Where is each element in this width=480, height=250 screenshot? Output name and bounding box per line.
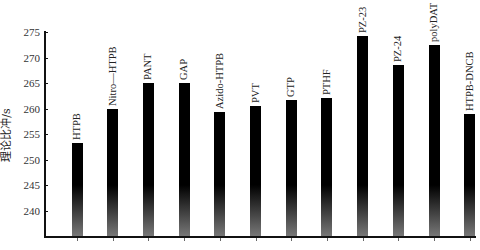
x-tick (434, 238, 435, 241)
y-tick-label: 245 (14, 179, 40, 191)
bar (429, 45, 440, 236)
y-tick (44, 109, 48, 110)
y-tick-label: 250 (14, 154, 40, 166)
bar-label: GAP (178, 59, 189, 80)
y-tick-label: 275 (14, 26, 40, 38)
x-tick (113, 238, 114, 241)
x-tick (184, 238, 185, 241)
bar-label: Nitro—HTPB (107, 46, 118, 106)
x-tick (470, 238, 471, 241)
y-tick-label: 260 (14, 103, 40, 115)
bar (179, 83, 190, 236)
bar (357, 36, 368, 236)
y-tick (44, 83, 48, 84)
y-tick-label: 265 (14, 77, 40, 89)
bar-label: Azido-HTPB (214, 53, 225, 109)
bar (214, 112, 225, 236)
y-tick (44, 211, 48, 212)
bar (72, 143, 83, 236)
x-tick (327, 238, 328, 241)
x-tick (220, 238, 221, 241)
y-tick (44, 160, 48, 161)
y-tick (44, 134, 48, 135)
bar-label: HTPB (71, 113, 82, 140)
x-axis-line (44, 236, 476, 238)
bar-label: PTHF (321, 69, 332, 95)
bar (321, 98, 332, 236)
bar (250, 106, 261, 236)
bar (143, 83, 154, 236)
y-tick-label: 270 (14, 52, 40, 64)
x-tick (363, 238, 364, 241)
bar (286, 100, 297, 236)
bar-chart: 理论比冲/s 240245250255260265270275 HTPBNitr… (0, 0, 480, 250)
bar-label: HTPB-DNCB (464, 51, 475, 111)
bar-label: PZ-23 (357, 7, 368, 33)
bar (464, 114, 475, 236)
bar-label: polyDAT (428, 3, 439, 42)
bar-label: PANT (142, 54, 153, 80)
x-tick (398, 238, 399, 241)
y-tick (44, 185, 48, 186)
bar-label: GTP (285, 77, 296, 97)
x-tick (148, 238, 149, 241)
y-tick-label: 255 (14, 128, 40, 140)
y-axis-label: 理论比冲/s (0, 108, 13, 161)
bar-label: PZ-24 (392, 36, 403, 62)
bar (107, 109, 118, 237)
x-tick (77, 238, 78, 241)
x-tick (291, 238, 292, 241)
bar-label: PVT (250, 84, 261, 104)
x-tick (256, 238, 257, 241)
y-tick (44, 58, 48, 59)
y-tick (44, 32, 48, 33)
bar (393, 65, 404, 236)
y-tick-label: 240 (14, 205, 40, 217)
